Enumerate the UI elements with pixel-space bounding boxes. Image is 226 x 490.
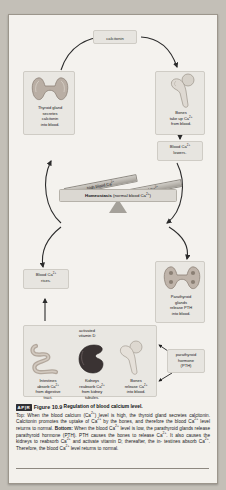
intestines-icon xyxy=(26,342,70,378)
apr-badge: AP|R xyxy=(16,404,32,411)
blood-rises-label: Blood Ca2+rises. xyxy=(36,272,57,283)
parathyroid-panel: Parathyroidglandsrelease PTHinto blood. xyxy=(155,261,205,323)
homeostasis-bar: Homeostasis (normal blood Ca2+) xyxy=(59,189,177,202)
calcitonin-label: calcitonin xyxy=(106,36,123,41)
thyroid-gland-icon xyxy=(24,74,76,104)
kidney-icon xyxy=(74,342,108,376)
caption-heading: AP|RFigure 10.9 Regulation of blood calc… xyxy=(16,404,210,411)
bones-uptake-panel: Bonestake up Ca2+from blood. xyxy=(155,71,205,135)
femur-bone-icon-2 xyxy=(114,340,148,376)
parathyroid-glands-icon xyxy=(156,264,206,292)
effectors-panel: activatedvitamin D Intestinesabsorb Ca2+… xyxy=(23,325,157,397)
kidneys-label: Kidneysreabsorb Ca2+from kidneytubules. xyxy=(70,378,114,400)
homeostasis-balance: high blood Ca2+ low blood Ca2+ Homeostas… xyxy=(47,167,187,227)
figure-number: Figure 10.9 xyxy=(34,404,62,410)
pth-callout: parathyroidhormone(PTH) xyxy=(167,349,205,373)
parathyroid-label: Parathyroidglandsrelease PTHinto blood. xyxy=(156,294,206,316)
figure-page: calcitonin Thyroid glandsecretescalciton… xyxy=(0,0,226,490)
bones-uptake-label: Bonestake up Ca2+from blood. xyxy=(156,110,206,127)
femur-bone-icon xyxy=(156,73,206,109)
homeostasis-bold-label: Homeostasis xyxy=(85,193,112,198)
node-blood-lowers: Blood Ca2+lowers. xyxy=(157,141,203,161)
thyroid-gland-label: Thyroid glandsecretescalcitonininto bloo… xyxy=(24,105,76,127)
activated-vitamin-d-label: activatedvitamin D xyxy=(64,328,110,339)
node-calcitonin: calcitonin xyxy=(93,30,137,44)
node-blood-rises: Blood Ca2+rises. xyxy=(23,269,69,289)
thyroid-gland-panel: Thyroid glandsecretescalcitonininto bloo… xyxy=(23,71,75,135)
figure-title: Regulation of blood calcium level. xyxy=(64,404,143,409)
bones-release-label: Bonesrelease Ca2+into blood. xyxy=(114,378,158,395)
pth-callout-label: parathyroidhormone(PTH) xyxy=(176,352,196,368)
intestines-label: Intestinesabsorb Ca2+from digestivetract… xyxy=(24,378,72,400)
homeostasis-normal-label: (normal blood Ca2+) xyxy=(113,193,151,198)
figure-caption: AP|RFigure 10.9 Regulation of blood calc… xyxy=(9,400,217,483)
figure-card: calcitonin Thyroid glandsecretescalciton… xyxy=(8,14,218,484)
caption-top-lead: Top: xyxy=(16,413,25,418)
caption-body: Top: When the blood calcium (Ca2+) level… xyxy=(16,413,210,453)
blood-lowers-label: Blood Ca2+lowers. xyxy=(170,144,191,155)
caption-rule xyxy=(16,468,209,469)
diagram-area: calcitonin Thyroid glandsecretescalciton… xyxy=(9,15,217,400)
